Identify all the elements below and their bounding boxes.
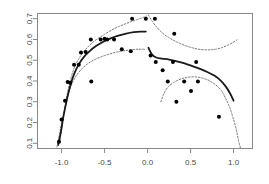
data-point [217,115,221,119]
data-point [196,79,200,83]
data-point [149,53,153,57]
data-point [130,17,134,21]
data-point [161,68,165,72]
y-tick-label-5: 0.6 [25,33,34,45]
y-tick-label-0: 0.1 [25,137,34,149]
data-point [79,51,83,55]
data-point [154,60,158,64]
data-point [189,89,193,93]
data-point [144,17,148,21]
data-point [112,37,116,41]
y-tick-label-2: 0.3 [25,96,34,108]
data-point [84,50,88,54]
chart-figure: 0.10.20.30.40.50.60.7-1.0-0.50.00.51.0 [0,0,269,184]
data-point [172,32,176,36]
data-point [68,81,72,85]
data-point [129,49,133,53]
fitted-curve-left [58,32,146,145]
data-point [182,79,186,83]
y-tick-label-3: 0.4 [25,75,34,87]
plot-content [57,15,241,148]
data-point [166,79,170,83]
data-point [194,60,198,64]
lower-confidence-band-left [57,49,146,147]
x-tick-label-0: -1.0 [55,158,69,167]
data-point [77,63,81,67]
y-tick-label-1: 0.2 [25,116,34,128]
upper-confidence-band-right [148,15,237,50]
data-point [120,47,124,51]
lower-confidence-band-right [161,77,241,148]
data-point [174,100,178,104]
scatter-plot-svg: 0.10.20.30.40.50.60.7-1.0-0.50.00.51.0 [0,0,269,184]
data-point [63,99,67,103]
x-tick-label-4: 1.0 [228,158,240,167]
data-point [72,63,76,67]
data-point [99,37,103,41]
data-point [60,117,64,121]
data-point [89,79,93,83]
x-tick-label-2: 0.0 [142,158,154,167]
x-tick-label-3: 0.5 [185,158,197,167]
data-point [171,60,175,64]
data-point [153,17,157,21]
data-point [89,37,93,41]
y-tick-label-4: 0.5 [25,54,34,66]
data-point [105,37,109,41]
y-tick-label-6: 0.7 [25,13,34,25]
data-point [57,140,61,144]
x-tick-label-1: -0.5 [98,158,112,167]
